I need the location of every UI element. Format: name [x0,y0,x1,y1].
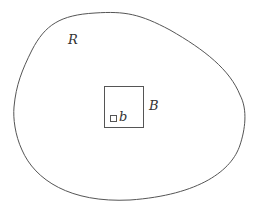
diagram-canvas: R B b [0,0,256,208]
label-small-b: b [119,109,127,124]
small-box-b [111,116,117,122]
label-r: R [67,32,78,47]
label-big-b: B [148,98,159,113]
region-r-outline [14,12,245,200]
